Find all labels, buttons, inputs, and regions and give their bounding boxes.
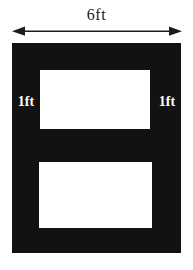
width-dimension-label: 6ft — [0, 6, 193, 24]
black-frame-shape: 1ft 1ft — [12, 43, 181, 253]
lower-cutout-rect — [39, 162, 152, 228]
frame-area-diagram: 6ft 1ft 1ft — [0, 0, 193, 270]
width-dimension-arrow-icon — [12, 25, 182, 37]
upper-cutout-rect — [40, 70, 150, 129]
right-thickness-label: 1ft — [153, 93, 181, 111]
left-thickness-label: 1ft — [12, 93, 40, 111]
